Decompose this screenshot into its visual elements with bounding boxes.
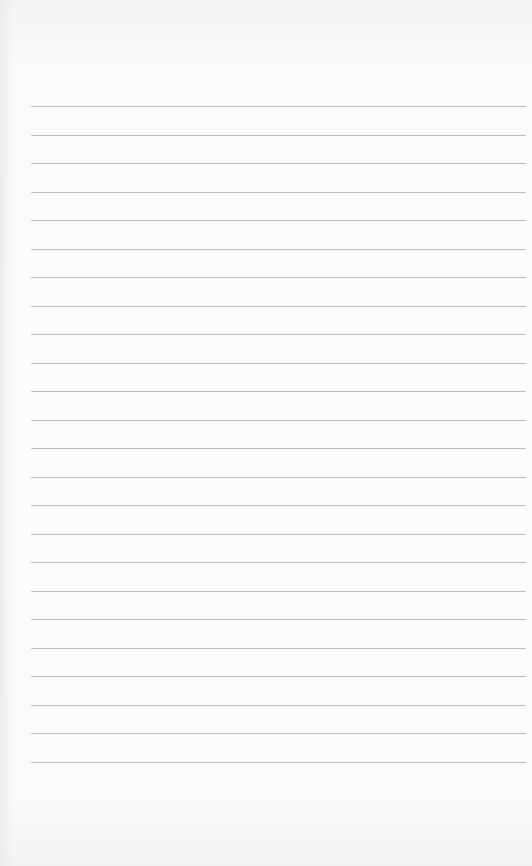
ruled-line: [31, 505, 526, 506]
ruled-line: [31, 192, 526, 193]
ruled-line: [31, 562, 526, 563]
ruled-line: [31, 705, 526, 706]
ruled-line: [31, 762, 526, 763]
ruled-line: [31, 534, 526, 535]
ruled-line: [31, 477, 526, 478]
ruled-line: [31, 420, 526, 421]
ruled-line: [31, 334, 526, 335]
ruled-line: [31, 448, 526, 449]
lined-paper-page: [0, 0, 532, 866]
ruled-line: [31, 363, 526, 364]
ruled-line: [31, 306, 526, 307]
ruled-line: [31, 391, 526, 392]
ruled-line: [31, 249, 526, 250]
ruled-line: [31, 163, 526, 164]
ruled-line: [31, 619, 526, 620]
ruled-line: [31, 277, 526, 278]
ruled-line: [31, 135, 526, 136]
ruled-line: [31, 648, 526, 649]
ruled-line: [31, 733, 526, 734]
ruled-line: [31, 676, 526, 677]
ruled-line: [31, 106, 526, 107]
ruled-line: [31, 220, 526, 221]
ruled-line: [31, 591, 526, 592]
